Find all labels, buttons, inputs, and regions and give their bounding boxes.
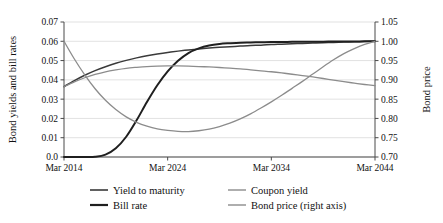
legend-item: Yield to maturity [90, 185, 185, 196]
y-tick-label: 0.06 [41, 37, 58, 47]
y2-tick-label: 0.75 [381, 133, 398, 143]
y-tick-label: 0.0 [46, 152, 58, 162]
x-tick-label: Mar 2044 [356, 163, 393, 173]
y2-axis-tick-labels: 0.700.750.800.850.900.951.001.05 [381, 17, 398, 162]
legend-label: Yield to maturity [113, 185, 185, 196]
y-axis-title: Bond yields and bill rates [7, 36, 18, 143]
y-axis-tick-labels: 0.00.010.020.030.040.050.060.07 [41, 17, 58, 162]
chart-legend: Yield to maturityCoupon yieldBill rateBo… [90, 185, 347, 212]
y2-axis-title: Bond price [421, 66, 432, 113]
legend-label: Bond price (right axis) [251, 200, 347, 212]
series-line-coupon-yield [64, 66, 375, 87]
y2-tick-label: 0.85 [381, 95, 398, 105]
y2-tick-label: 0.70 [381, 152, 398, 162]
series-line-bond-price-right-axis [64, 41, 375, 131]
y2-tick-label: 0.90 [381, 75, 398, 85]
y2-tick-label: 1.05 [381, 17, 398, 27]
x-tick-label: Mar 2024 [149, 163, 186, 173]
y2-tick-label: 1.00 [381, 37, 398, 47]
legend-label: Coupon yield [251, 185, 309, 196]
bond-yields-line-chart: 0.00.010.020.030.040.050.060.07 0.700.75… [0, 0, 443, 223]
legend-item: Bill rate [90, 200, 147, 211]
legend-item: Coupon yield [228, 185, 309, 196]
y-tick-label: 0.05 [41, 56, 58, 66]
legend-item: Bond price (right axis) [228, 200, 347, 212]
x-tick-label: Mar 2014 [45, 163, 82, 173]
chart-figure: 0.00.010.020.030.040.050.060.07 0.700.75… [0, 0, 443, 223]
x-axis-tick-labels: Mar 2014Mar 2024Mar 2034Mar 2044 [45, 163, 393, 173]
y-tick-label: 0.03 [41, 95, 58, 105]
x-tick-label: Mar 2034 [253, 163, 290, 173]
y-tick-label: 0.07 [41, 17, 58, 27]
y2-tick-label: 0.95 [381, 56, 398, 66]
legend-label: Bill rate [113, 200, 147, 211]
y2-tick-label: 0.80 [381, 114, 398, 124]
y-tick-label: 0.04 [41, 75, 58, 85]
y-tick-label: 0.02 [41, 114, 58, 124]
y-tick-label: 0.01 [41, 133, 58, 143]
